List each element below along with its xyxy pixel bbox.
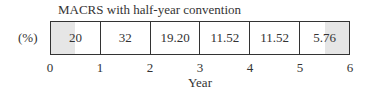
cell-value: 19.20: [160, 30, 189, 46]
cell-value: 11.52: [211, 30, 240, 46]
x-tick: 2: [147, 60, 154, 76]
x-tick: 1: [97, 60, 104, 76]
x-tick: 4: [247, 60, 254, 76]
cell-value: 11.52: [260, 30, 289, 46]
x-tick: 6: [347, 60, 354, 76]
x-tick: 3: [197, 60, 204, 76]
year-4-cell: 11.52: [200, 22, 250, 54]
year-3-cell: 19.20: [151, 22, 201, 54]
cell-value: 20: [69, 30, 82, 46]
x-axis-label: Year: [188, 75, 212, 90]
x-tick: 5: [297, 60, 304, 76]
depreciation-table: 20 32 19.20 11.52 11.52 5.76: [50, 21, 350, 55]
year-6-cell: 5.76: [300, 22, 349, 54]
year-5-cell: 11.52: [250, 22, 300, 54]
year-2-cell: 32: [101, 22, 151, 54]
y-axis-label: (%): [18, 30, 38, 46]
year-1-cell: 20: [51, 22, 101, 54]
cell-value: 5.76: [313, 30, 336, 46]
cell-value: 32: [119, 30, 132, 46]
x-tick: 0: [47, 60, 54, 76]
diagram-title: MACRS with half-year convention: [58, 2, 241, 18]
